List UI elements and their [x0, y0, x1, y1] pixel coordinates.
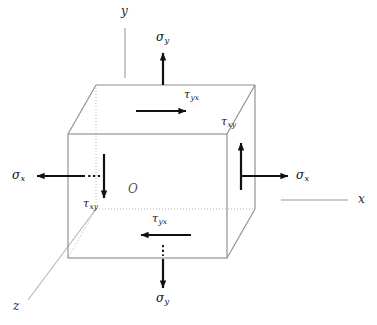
- sigma-y-top-subscript: y: [165, 35, 170, 45]
- sigma-y-top-label: σy: [156, 31, 169, 44]
- tau-xy-right-subscript: xy: [227, 120, 235, 129]
- tau-xy-right-label: τxy: [221, 116, 236, 129]
- sigma-x-right-label: σx: [296, 169, 309, 182]
- tau-xy-left-label: τxy: [83, 198, 98, 211]
- tau-yx-top-label: τyx: [184, 89, 199, 102]
- sigma-y-bottom-label: σy: [156, 292, 169, 305]
- sigma-y-bottom-symbol: σ: [156, 291, 164, 305]
- tau-xy-left-subscript: xy: [89, 202, 97, 211]
- axis-z-line: [28, 209, 96, 300]
- axis-label-x: x: [358, 193, 365, 205]
- sigma-x-right-symbol: σ: [296, 168, 304, 182]
- tau-yx-bottom-subscript: yx: [158, 217, 166, 226]
- stress-element-figure: y x z O σy τyx τxy σx σx τxy τyx σy: [0, 0, 377, 325]
- tau-yx-top-subscript: yx: [190, 93, 198, 102]
- stress-element-drawing: [0, 0, 377, 325]
- sigma-x-left-label: σx: [12, 169, 25, 182]
- axis-label-z: z: [13, 300, 19, 312]
- axis-label-y: y: [121, 5, 128, 17]
- tau-yx-bottom-label: τyx: [152, 213, 167, 226]
- sigma-x-left-subscript: x: [21, 173, 26, 183]
- sigma-y-bottom-subscript: y: [165, 296, 170, 306]
- sigma-x-left-symbol: σ: [12, 168, 20, 182]
- sigma-x-right-subscript: x: [305, 173, 310, 183]
- sigma-y-top-symbol: σ: [156, 30, 164, 44]
- origin-label: O: [128, 183, 138, 195]
